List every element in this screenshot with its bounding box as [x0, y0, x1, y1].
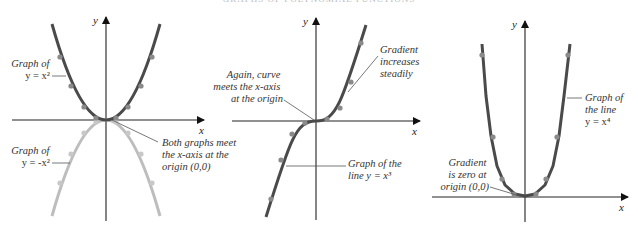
- curve-x-fourth: [482, 44, 570, 196]
- note-gradient-increases: Gradient increases steadily: [380, 44, 422, 79]
- leader-origin-note: [284, 100, 314, 120]
- figure-canvas: y x Graph of y = x² Graph of y = -x² Bot…: [0, 0, 638, 228]
- x-axis-label: x: [618, 201, 624, 213]
- graph-cubic: y x Again, curve meets the x-axis at the…: [213, 15, 422, 220]
- x-axis-label: x: [411, 125, 417, 137]
- note-gradient-zero: Gradient is zero at origin (0,0): [441, 157, 490, 193]
- leader-gradient-zero: [490, 187, 520, 196]
- y-axis-label: y: [92, 14, 98, 26]
- label-x-fourth: Graph of the line y = x⁴: [585, 92, 626, 127]
- graph-quartic: y x Graph of the line y = x⁴ Gradient is…: [432, 18, 628, 222]
- label-neg-x-squared: Graph of y = -x²: [11, 145, 52, 168]
- leader-gradient-note: [348, 56, 378, 92]
- y-axis-label: y: [511, 18, 517, 30]
- x-axis-label: x: [198, 124, 204, 136]
- leader-origin-note: [112, 120, 158, 142]
- note-both-meet-origin: Both graphs meet the x-axis at the origi…: [162, 137, 239, 173]
- note-curve-meets-origin: Again, curve meets the x-axis at the ori…: [213, 69, 283, 104]
- label-x-squared: Graph of y = x²: [11, 58, 52, 81]
- graph-quadratic: y x Graph of y = x² Graph of y = -x² Bot…: [11, 14, 239, 221]
- y-axis-label: y: [302, 15, 308, 27]
- label-x-cubed: Graph of the line y = x³: [348, 158, 404, 181]
